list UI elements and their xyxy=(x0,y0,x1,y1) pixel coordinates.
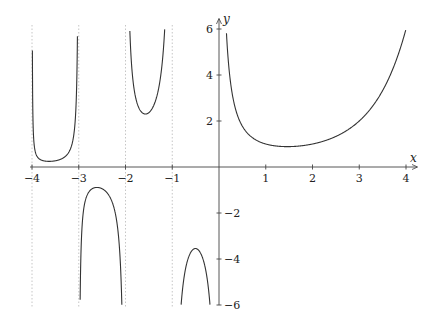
x-tick-label: 4 xyxy=(403,172,410,185)
y-tick-label: −4 xyxy=(224,253,240,266)
x-tick-label: −2 xyxy=(117,172,133,185)
asymptote-lines xyxy=(32,25,172,307)
x-tick-label: −3 xyxy=(71,172,87,185)
x-tick-label: 3 xyxy=(356,172,363,185)
gamma-branch xyxy=(130,29,165,114)
gamma-branch xyxy=(226,30,405,146)
y-tick-label: −2 xyxy=(224,207,240,220)
y-tick-label: 6 xyxy=(206,23,213,36)
y-tick-label: 2 xyxy=(206,115,213,128)
gamma-branch xyxy=(181,249,210,305)
y-tick-label: 4 xyxy=(206,69,213,82)
x-tick-label: −1 xyxy=(164,172,180,185)
x-tick-label: 1 xyxy=(262,172,269,185)
gamma-branch xyxy=(32,36,77,161)
axis-ticks: −4−3−2−11234−6−4−2246 xyxy=(24,23,410,312)
gamma-branch xyxy=(80,187,122,304)
gamma-function-plot: x y −4−3−2−11234−6−4−2246 xyxy=(0,0,438,322)
x-axis-label: x xyxy=(410,151,417,165)
x-tick-label: 2 xyxy=(309,172,316,185)
y-tick-label: −6 xyxy=(224,299,240,312)
x-tick-label: −4 xyxy=(24,172,40,185)
y-axis-label: y xyxy=(222,12,230,26)
